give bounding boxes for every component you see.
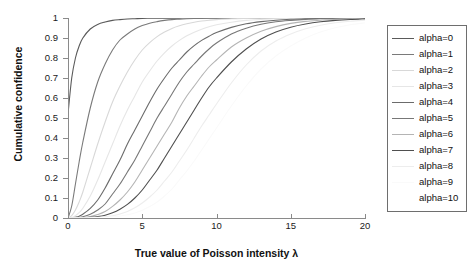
curve-alpha-10 <box>68 27 365 218</box>
legend-item-alpha-6[interactable]: alpha=6 <box>392 126 463 142</box>
y-tick-mark <box>63 38 68 39</box>
y-tick-label: 1 <box>24 13 58 23</box>
y-tick-mark <box>63 158 68 159</box>
legend-line-swatch <box>392 130 414 139</box>
y-tick-label: 0.4 <box>24 133 58 143</box>
legend-line-swatch <box>392 82 414 91</box>
y-tick-label: 0.3 <box>24 153 58 163</box>
legend-item-alpha-5[interactable]: alpha=5 <box>392 110 463 126</box>
curve-alpha-6 <box>68 18 365 218</box>
plot-area <box>68 18 365 218</box>
legend-item-label: alpha=6 <box>419 129 453 139</box>
curve-alpha-9 <box>68 23 365 218</box>
x-tick-label: 10 <box>202 221 232 231</box>
legend-item-label: alpha=0 <box>419 33 453 43</box>
y-tick-label: 0.9 <box>24 33 58 43</box>
legend-item-label: alpha=1 <box>419 49 453 59</box>
curve-alpha-5 <box>68 18 365 218</box>
legend-item-alpha-10[interactable]: alpha=10 <box>392 190 463 206</box>
legend-line-swatch <box>392 34 414 43</box>
legend-item-label: alpha=4 <box>419 97 453 107</box>
x-tick-label: 15 <box>276 221 306 231</box>
legend-line-swatch <box>392 146 414 155</box>
y-tick-label: 0.6 <box>24 93 58 103</box>
x-tick-mark <box>291 214 292 219</box>
y-tick-mark <box>63 78 68 79</box>
legend-item-label: alpha=10 <box>419 193 458 203</box>
curve-alpha-4 <box>68 18 365 218</box>
legend-item-label: alpha=5 <box>419 113 453 123</box>
x-tick-label: 20 <box>350 221 380 231</box>
legend-line-swatch <box>392 50 414 59</box>
x-tick-label: 5 <box>127 221 157 231</box>
legend-item-alpha-9[interactable]: alpha=9 <box>392 174 463 190</box>
legend-item-label: alpha=7 <box>419 145 453 155</box>
curve-alpha-2 <box>68 18 365 218</box>
x-tick-label: 0 <box>53 221 83 231</box>
legend-item-alpha-8[interactable]: alpha=8 <box>392 158 463 174</box>
y-tick-label: 0.5 <box>24 113 58 123</box>
legend-line-swatch <box>392 162 414 171</box>
legend-item-label: alpha=3 <box>419 81 453 91</box>
y-tick-mark <box>63 98 68 99</box>
legend-item-alpha-1[interactable]: alpha=1 <box>392 46 463 62</box>
curves-svg <box>68 18 365 218</box>
curve-alpha-3 <box>68 18 365 218</box>
legend-item-label: alpha=9 <box>419 177 453 187</box>
legend-line-swatch <box>392 178 414 187</box>
x-tick-mark <box>217 214 218 219</box>
legend-line-swatch <box>392 114 414 123</box>
chart-figure: 00.10.20.30.40.50.60.70.80.91 05101520 T… <box>0 0 475 271</box>
y-tick-mark <box>63 198 68 199</box>
legend-item-alpha-2[interactable]: alpha=2 <box>392 62 463 78</box>
legend-item-label: alpha=8 <box>419 161 453 171</box>
y-tick-mark <box>63 58 68 59</box>
curve-alpha-1 <box>68 18 365 218</box>
legend-line-swatch <box>392 98 414 107</box>
x-tick-mark <box>365 214 366 219</box>
legend: alpha=0alpha=1alpha=2alpha=3alpha=4alpha… <box>387 25 467 212</box>
y-tick-mark <box>63 138 68 139</box>
y-tick-mark <box>63 118 68 119</box>
legend-item-alpha-7[interactable]: alpha=7 <box>392 142 463 158</box>
legend-line-swatch <box>392 66 414 75</box>
legend-item-alpha-0[interactable]: alpha=0 <box>392 30 463 46</box>
legend-item-alpha-3[interactable]: alpha=3 <box>392 78 463 94</box>
y-tick-mark <box>63 18 68 19</box>
y-tick-label: 0.7 <box>24 73 58 83</box>
legend-line-swatch <box>392 194 414 203</box>
x-tick-mark <box>68 214 69 219</box>
y-tick-label: 0.2 <box>24 173 58 183</box>
y-tick-label: 0.1 <box>24 193 58 203</box>
x-axis-label: True value of Poisson intensity λ <box>68 247 365 259</box>
legend-item-label: alpha=2 <box>419 65 453 75</box>
y-tick-label: 0.8 <box>24 53 58 63</box>
y-axis-label: Cumulative confidence <box>12 24 24 184</box>
legend-item-alpha-4[interactable]: alpha=4 <box>392 94 463 110</box>
x-tick-mark <box>142 214 143 219</box>
curve-alpha-7 <box>68 19 365 218</box>
y-tick-mark <box>63 178 68 179</box>
